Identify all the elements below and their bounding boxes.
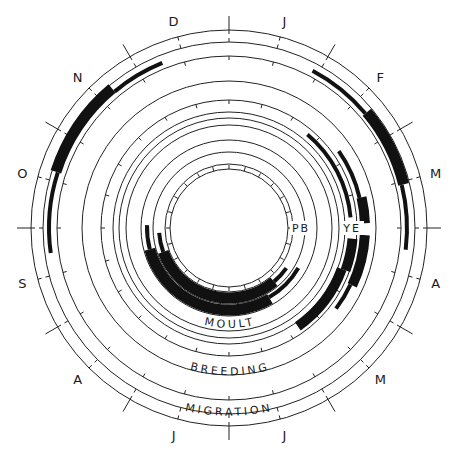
ring-tick bbox=[259, 279, 261, 282]
phenology-bar-migration bbox=[115, 63, 163, 92]
ring-circle bbox=[170, 169, 288, 287]
ring-tick bbox=[336, 164, 339, 166]
ring-circle bbox=[165, 164, 293, 292]
ring-tick bbox=[348, 347, 351, 350]
ring-tick bbox=[313, 79, 315, 82]
ring-tick bbox=[348, 106, 351, 109]
ring-tick bbox=[291, 335, 293, 338]
ring-tick bbox=[58, 325, 61, 327]
ring-tick bbox=[390, 321, 393, 323]
ring-tick bbox=[63, 183, 67, 184]
ring-tick bbox=[130, 57, 132, 60]
month-label: M bbox=[430, 166, 441, 181]
ring-tick bbox=[118, 290, 121, 292]
ring-tick bbox=[277, 44, 278, 48]
month-boundary-tick bbox=[45, 327, 57, 334]
month-label: O bbox=[17, 166, 27, 181]
ye-label: YE bbox=[342, 222, 361, 235]
ring-tick bbox=[272, 62, 273, 66]
pb-label: PB bbox=[292, 222, 310, 235]
ring-tick bbox=[261, 104, 262, 108]
month-boundary-tick bbox=[328, 44, 335, 56]
ring-tick bbox=[45, 276, 49, 277]
circular-phenology-chart: JFMAMJJASOND PB YE MOULT BREEDING MIGRAT… bbox=[0, 0, 451, 455]
moult-label: MOULT bbox=[203, 315, 256, 331]
month-boundary-tick bbox=[45, 122, 57, 129]
ring-tick bbox=[322, 63, 324, 66]
ring-tick bbox=[366, 88, 369, 91]
ring-tick bbox=[105, 195, 109, 196]
month-label: A bbox=[73, 372, 82, 387]
ring-tick bbox=[326, 57, 328, 60]
month-boundary-tick bbox=[328, 399, 335, 411]
month-label: S bbox=[18, 276, 26, 291]
ring-tick bbox=[286, 243, 290, 244]
month-boundary-tick bbox=[400, 327, 412, 334]
ring-tick bbox=[196, 348, 197, 352]
ring-tick bbox=[390, 133, 393, 135]
ring-tick bbox=[165, 117, 167, 120]
ring-tick bbox=[244, 167, 245, 171]
ring-tick bbox=[184, 270, 187, 273]
ring-tick bbox=[130, 396, 132, 399]
ring-tick bbox=[174, 258, 177, 260]
ring-tick bbox=[168, 212, 172, 213]
ring-tick bbox=[366, 365, 369, 368]
ring-tick bbox=[165, 335, 167, 338]
migration-label: MIGRATION bbox=[184, 401, 274, 419]
ring-tick bbox=[213, 285, 214, 289]
month-label: N bbox=[73, 70, 83, 85]
ring-tick bbox=[80, 142, 83, 144]
phenology-bar-ye bbox=[339, 151, 360, 198]
month-boundary-tick bbox=[123, 44, 130, 56]
ring-tick bbox=[361, 360, 364, 363]
ring-tick bbox=[180, 408, 181, 412]
month-label: J bbox=[281, 428, 286, 443]
ring-tick bbox=[374, 142, 377, 144]
ring-tick bbox=[107, 347, 110, 350]
ring-tick bbox=[286, 212, 290, 213]
ring-tick bbox=[349, 195, 353, 196]
phenology-bar-migration bbox=[402, 185, 407, 250]
ring-tick bbox=[168, 243, 172, 244]
ring-tick bbox=[397, 129, 400, 131]
ring-tick bbox=[134, 389, 136, 392]
ring-tick bbox=[409, 179, 413, 180]
ring-tick bbox=[397, 325, 400, 327]
ring-tick bbox=[322, 389, 324, 392]
month-label: J bbox=[171, 428, 176, 443]
ring-tick bbox=[326, 396, 328, 399]
ring-tick bbox=[134, 63, 136, 66]
month-labels: JFMAMJJASOND bbox=[17, 14, 441, 442]
ring-tick bbox=[391, 183, 395, 184]
ring-tick bbox=[279, 415, 280, 419]
ring-tick bbox=[277, 408, 278, 412]
month-label: A bbox=[431, 276, 440, 291]
month-label: M bbox=[375, 372, 386, 387]
ring-tick bbox=[279, 37, 280, 41]
month-boundary-tick bbox=[123, 399, 130, 411]
ring-tick bbox=[64, 321, 67, 323]
ring-tick bbox=[138, 316, 141, 319]
ring-tick bbox=[184, 183, 187, 186]
ring-tick bbox=[416, 177, 420, 178]
ring-tick bbox=[259, 173, 261, 176]
ring-tick bbox=[143, 373, 145, 376]
ring-tick bbox=[80, 312, 83, 314]
phenology-bar-migration bbox=[56, 89, 112, 172]
month-boundary-tick bbox=[400, 122, 412, 129]
ring-tick bbox=[38, 278, 42, 279]
phenology-bar-pb bbox=[159, 233, 163, 252]
ring-tick bbox=[313, 373, 315, 376]
phenology-bar-pb bbox=[147, 225, 150, 249]
ring-tick bbox=[261, 348, 262, 352]
ring-tick bbox=[317, 137, 320, 140]
month-label: F bbox=[377, 70, 384, 85]
month-label: J bbox=[281, 14, 286, 29]
phenology-bar-migration bbox=[49, 172, 58, 253]
ring-tick bbox=[107, 106, 110, 109]
ring-tick bbox=[58, 129, 61, 131]
ring-tick bbox=[416, 278, 420, 279]
ring-tick bbox=[213, 167, 214, 171]
ring-tick bbox=[244, 285, 245, 289]
